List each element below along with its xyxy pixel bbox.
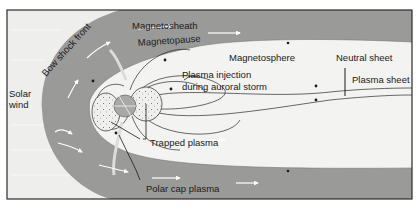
label-solar-wind-2: wind [8, 99, 29, 110]
label-trapped-plasma: Trapped plasma [150, 137, 219, 148]
label-magnetosphere: Magnetosphere [229, 52, 295, 63]
label-neutral-sheet: Neutral sheet [336, 52, 393, 63]
earth [114, 95, 136, 117]
label-magnetosheath: Magnetosheath [132, 20, 198, 31]
magnetosphere-diagram: Solar wind Bow shock front Magnetosheath… [0, 0, 418, 214]
label-polar-cap-plasma: Polar cap plasma [146, 183, 220, 194]
label-plasma-injection-1: Plasma injection [182, 69, 251, 80]
label-solar-wind-1: Solar [9, 88, 31, 99]
label-plasma-injection-2: during auroral storm [182, 81, 267, 92]
label-plasma-sheet: Plasma sheet [352, 74, 410, 85]
